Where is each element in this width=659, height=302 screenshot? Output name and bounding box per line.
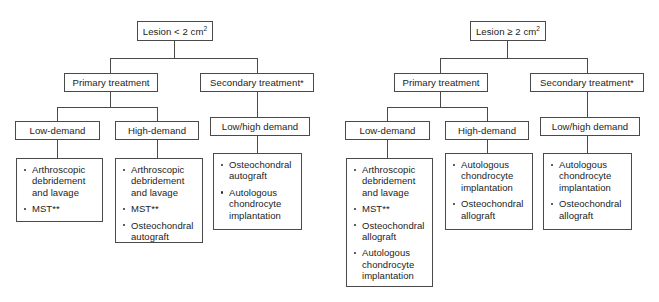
connector-to-high-demand [157,107,158,121]
list-lesion-large-low-high-demand: Autologous chondrocyte implantation Oste… [543,153,632,230]
list-item: Arthroscopic debridement and lavage [352,164,428,198]
connector-to-primary [110,58,111,73]
connector-low-high-demand-down [257,136,258,153]
node-label: Primary treatment [72,77,149,88]
connector-high-demand-down [487,140,488,154]
list-lesion-large-high-demand: Autologous chondrocyte implantation Oste… [445,153,533,230]
superscript: 2 [536,24,540,31]
list-item: Osteochondral autograft [219,159,297,182]
connector-to-secondary [587,58,588,73]
list-item: MST** [22,203,98,214]
treatment-list: Arthroscopic debridement and lavage MST*… [352,164,428,282]
node-lesion-small-root: Lesion < 2 cm2 [137,21,213,41]
connector-to-primary [440,58,441,73]
node-lesion-small-high-demand: High-demand [115,121,199,140]
list-item: Autologous chondrocyte implantation [451,159,528,193]
connector-to-low-demand [57,107,58,121]
node-label: Low/high demand [552,121,629,132]
treatment-list: Arthroscopic debridement and lavage MST*… [121,164,198,242]
node-label: Low/high demand [222,121,299,132]
node-label: High-demand [128,125,186,136]
connector-root-down [507,41,508,58]
connector-low-demand-down [57,140,58,158]
treatment-list: Autologous chondrocyte implantation Oste… [451,159,528,221]
connector-high-demand-down [157,140,158,158]
node-label: Secondary treatment* [540,77,634,88]
node-label: Secondary treatment* [210,77,304,88]
connector-low-high-demand-down [587,136,588,153]
list-item: Arthroscopic debridement and lavage [121,164,198,198]
list-item: Osteochondral autograft [121,220,198,243]
node-label: Low-demand [30,125,86,136]
connector-primary-down [440,92,441,107]
connector-to-secondary [257,58,258,73]
flowchart-canvas: Lesion < 2 cm2 Primary treatment Seconda… [0,0,659,302]
node-label: High-demand [458,125,516,136]
connector-primary-bar [387,107,488,108]
node-lesion-small-low-high-demand: Low/high demand [210,117,310,136]
connector-root-down [174,41,175,58]
node-label: Low-demand [360,125,416,136]
connector-low-demand-down [387,140,388,158]
treatment-list: Autologous chondrocyte implantation Oste… [549,159,627,221]
list-item: Osteochondral allograft [352,220,428,243]
connector-to-high-demand [487,107,488,121]
list-item: Autologous chondrocyte implantation [352,247,428,281]
superscript: 2 [203,24,207,31]
node-lesion-large-primary: Primary treatment [394,73,488,92]
connector-primary-down [110,92,111,107]
list-item: Arthroscopic debridement and lavage [22,164,98,198]
treatment-list: Osteochondral autograft Autologous chond… [219,159,297,221]
node-lesion-large-low-high-demand: Low/high demand [540,117,640,136]
list-item: Osteochondral allograft [451,198,528,221]
list-item: Autologous chondrocyte implantation [549,159,627,193]
connector-primary-bar [57,107,158,108]
node-lesion-large-high-demand: High-demand [445,121,529,140]
list-item: Osteochondral allograft [549,198,627,221]
list-lesion-large-low-demand: Arthroscopic debridement and lavage MST*… [346,158,433,287]
node-lesion-large-low-demand: Low-demand [345,121,430,140]
list-item: Autologous chondrocyte implantation [219,187,297,221]
connector-to-low-demand [387,107,388,121]
node-label: Lesion ≥ 2 cm2 [476,26,540,37]
node-lesion-small-secondary: Secondary treatment* [200,73,314,92]
treatment-list: Arthroscopic debridement and lavage MST*… [22,164,98,215]
node-lesion-large-secondary: Secondary treatment* [530,73,644,92]
node-label: Primary treatment [402,77,479,88]
node-lesion-large-root: Lesion ≥ 2 cm2 [470,21,546,41]
connector-root-bar [110,58,258,59]
list-lesion-small-high-demand: Arthroscopic debridement and lavage MST*… [115,158,203,243]
connector-root-bar [440,58,587,59]
list-lesion-small-low-demand: Arthroscopic debridement and lavage MST*… [16,158,103,222]
node-lesion-small-low-demand: Low-demand [15,121,100,140]
list-lesion-small-low-high-demand: Osteochondral autograft Autologous chond… [213,153,302,230]
node-lesion-small-primary: Primary treatment [64,73,158,92]
list-item: MST** [352,203,428,214]
list-item: MST** [121,203,198,214]
node-label: Lesion < 2 cm2 [143,26,207,37]
